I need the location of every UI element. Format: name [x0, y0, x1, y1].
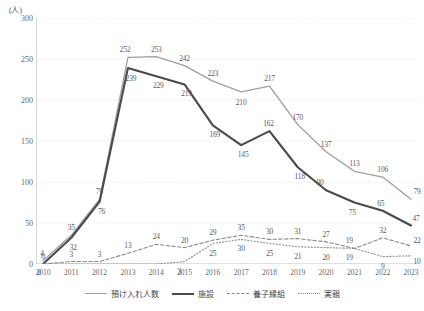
legend-item-1[interactable]: 施設 [172, 288, 214, 299]
x-axis-tick-2017: 2017 [234, 268, 249, 277]
data-label-1-11: 75 [349, 207, 356, 216]
data-label-1-10: 90 [317, 178, 324, 187]
data-label-2-13: 22 [413, 235, 420, 244]
legend-swatch-icon-0 [85, 293, 107, 294]
data-label-1-2: 76 [98, 206, 105, 215]
x-axis-tick-2018: 2018 [262, 268, 277, 277]
legend-item-0[interactable]: 預け入れ人数 [85, 288, 159, 299]
x-axis-tick-2011: 2011 [64, 268, 79, 277]
data-label-2-1: 3 [70, 249, 74, 258]
data-label-1-3: 239 [126, 74, 137, 83]
data-label-0-13: 79 [413, 187, 420, 196]
chart-legend: 預け入れ人数施設養子縁組実親 [0, 288, 424, 299]
data-label-3-5: 3 [178, 266, 182, 275]
data-label-0-5: 242 [179, 53, 190, 62]
x-axis-tick-2019: 2019 [290, 268, 305, 277]
data-label-0-2: 79 [96, 187, 103, 196]
data-label-3-6: 25 [209, 248, 216, 257]
data-label-0-10: 137 [321, 139, 332, 148]
data-label-0-11: 113 [349, 159, 359, 168]
data-label-1-8: 162 [263, 119, 274, 128]
legend-swatch-icon-1 [172, 293, 194, 295]
data-label-1-9: 118 [295, 172, 305, 181]
x-axis-tick-2023: 2023 [404, 268, 419, 277]
data-label-2-5: 20 [181, 235, 188, 244]
data-label-0-3: 252 [120, 45, 131, 54]
data-label-0-6: 223 [208, 69, 219, 78]
legend-label-1: 施設 [198, 288, 214, 299]
legend-item-3[interactable]: 実親 [298, 288, 340, 299]
plot-area [36, 18, 418, 264]
data-label-0-8: 217 [264, 74, 275, 83]
y-axis-tick-200: 200 [7, 96, 33, 105]
y-axis-tick-100: 100 [7, 178, 33, 187]
legend-label-0: 預け入れ人数 [111, 288, 159, 299]
data-label-2-11: 19 [346, 236, 353, 245]
legend-swatch-icon-2 [227, 293, 249, 294]
y-axis-tick-250: 250 [7, 55, 33, 64]
y-axis: 050100150200250300 [3, 0, 33, 311]
data-label-2-12: 32 [379, 225, 386, 234]
legend-label-3: 実親 [324, 288, 340, 299]
legend-item-2[interactable]: 養子縁組 [227, 288, 285, 299]
data-label-0-9: 170 [292, 112, 303, 121]
x-axis-tick-2020: 2020 [319, 268, 334, 277]
x-axis-tick-2014: 2014 [149, 268, 164, 277]
data-label-3-7: 30 [238, 244, 245, 253]
data-label-2-4: 24 [153, 232, 160, 241]
data-label-1-4: 229 [153, 81, 164, 90]
data-label-2-0: 0 [41, 252, 45, 261]
data-label-2-7: 35 [238, 223, 245, 232]
data-label-1-12: 65 [377, 198, 384, 207]
data-label-2-3: 13 [124, 241, 131, 250]
y-axis-tick-300: 300 [7, 14, 33, 23]
data-label-3-8: 25 [266, 248, 273, 257]
data-label-0-12: 106 [377, 165, 388, 174]
data-label-3-9: 21 [294, 251, 301, 260]
legend-label-2: 養子縁組 [253, 288, 285, 299]
data-label-3-11: 19 [346, 253, 353, 262]
data-label-1-0: 0 [37, 268, 41, 277]
data-label-1-13: 47 [412, 214, 419, 223]
data-label-2-2: 3 [98, 249, 102, 258]
data-label-3-12: 9 [381, 261, 385, 270]
x-axis-tick-2016: 2016 [205, 268, 220, 277]
y-axis-tick-0: 0 [7, 260, 33, 269]
data-label-3-10: 20 [323, 252, 330, 261]
data-label-2-8: 30 [266, 227, 273, 236]
data-label-1-5: 219 [181, 89, 192, 98]
y-axis-tick-50: 50 [7, 219, 33, 228]
data-label-1-6: 169 [210, 130, 221, 139]
data-label-2-10: 27 [323, 229, 330, 238]
x-axis-tick-2021: 2021 [347, 268, 362, 277]
data-label-0-7: 210 [236, 97, 247, 106]
data-label-1-7: 145 [238, 150, 249, 159]
x-axis-tick-2012: 2012 [92, 268, 107, 277]
y-axis-tick-150: 150 [7, 137, 33, 146]
legend-swatch-icon-3 [298, 293, 320, 294]
plot-svg [36, 18, 418, 264]
data-label-2-6: 29 [209, 228, 216, 237]
data-label-2-9: 31 [294, 226, 301, 235]
data-label-3-13: 10 [413, 256, 420, 265]
line-chart: (人) 050100150200250300 20102011201220132… [0, 0, 424, 311]
x-axis-tick-2013: 2013 [120, 268, 135, 277]
data-label-0-4: 253 [151, 44, 162, 53]
data-label-0-1: 35 [68, 223, 75, 232]
